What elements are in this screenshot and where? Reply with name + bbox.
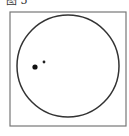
circle-outline (17, 15, 119, 117)
diagram-canvas (0, 0, 129, 136)
large-dot (32, 64, 37, 69)
square-frame (10, 12, 126, 126)
small-dot (43, 61, 46, 64)
